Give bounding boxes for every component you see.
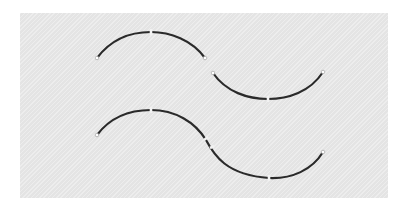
curves-diagram [0,0,409,208]
node-marker [95,56,99,60]
node-marker [95,133,99,137]
bottom-row [95,107,325,181]
top-row [95,29,325,102]
s-curve-inflection-gap-2 [210,146,214,148]
top-convex-arc [97,32,205,58]
top-concave-arc [213,72,323,99]
s-curve [97,110,323,178]
node-marker [321,70,325,74]
node-marker [203,56,207,60]
node-marker [321,150,325,154]
node-marker [211,71,215,75]
